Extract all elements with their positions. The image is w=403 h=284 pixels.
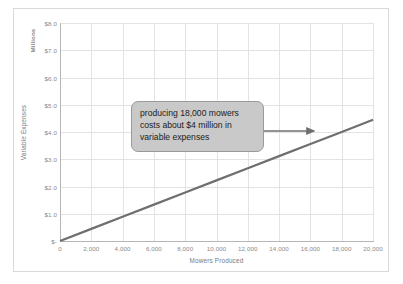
x-axis-tick-label: 16,000 [301,245,321,252]
x-axis-tick-label: 6,000 [146,245,162,252]
callout-arrow-icon [262,117,324,145]
y-axis-tick-label: $8.0 [45,20,57,27]
x-axis-tick-label: 10,000 [207,245,227,252]
x-axis-tick-label: 12,000 [238,245,258,252]
x-axis-title: Mowers Produced [60,257,373,264]
chart-frame: $-$1.0$2.0$3.0$4.0$5.0$6.0$7.0$8.0 Milli… [13,8,389,272]
y-axis-tick-label: $5.0 [45,101,57,108]
x-axis-tick-label: 20,000 [363,245,383,252]
x-axis-tick-label: 8,000 [177,245,193,252]
y-axis-tick-label: $6.0 [45,74,57,81]
x-axis-tick-label: 14,000 [269,245,289,252]
y-axis-title: Variable Expenses [20,83,27,183]
y-axis-tick-label: $3.0 [45,156,57,163]
y-axis-units-label: Millions [29,21,36,61]
gridline-vertical [373,23,374,241]
annotation-callout: producing 18,000 mowers costs about $4 m… [131,101,264,152]
x-axis-line [60,241,374,242]
x-axis-tick-label: 4,000 [115,245,131,252]
x-axis-tick-label: 0 [58,245,62,252]
y-axis-tick-label: $7.0 [45,47,57,54]
x-axis-tick-labels: 02,0004,0006,0008,00010,00012,00014,0001… [60,245,373,257]
y-axis-tick-label: $- [51,238,57,245]
y-axis-tick-label: $2.0 [45,183,57,190]
x-axis-tick-label: 2,000 [83,245,99,252]
y-axis-tick-label: $4.0 [45,129,57,136]
y-axis-tick-label: $1.0 [45,210,57,217]
x-axis-tick-label: 18,000 [332,245,352,252]
